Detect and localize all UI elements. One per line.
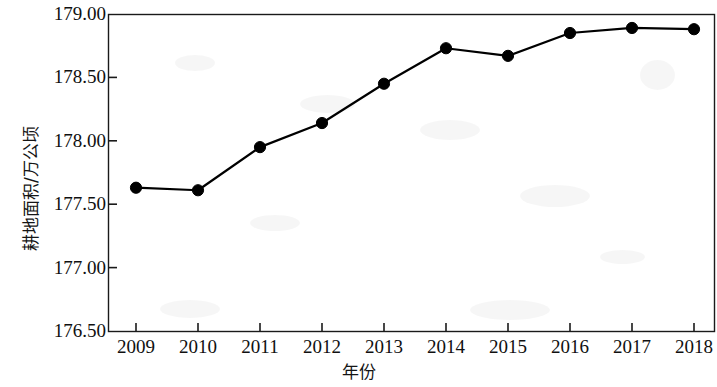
x-axis-title: 年份 xyxy=(0,358,717,383)
chart-figure: 耕地面积/万公顷 179.00178.50178.00177.50177.001… xyxy=(0,0,717,387)
x-axis-tick-label: 2011 xyxy=(225,337,295,356)
x-axis-tick-label: 2015 xyxy=(473,337,543,356)
x-axis-tick-label: 2009 xyxy=(101,337,171,356)
x-axis-tick-label: 2018 xyxy=(659,337,717,356)
x-axis-tick-label: 2016 xyxy=(535,337,605,356)
x-axis-tick-label: 2012 xyxy=(287,337,357,356)
x-axis-tick-label: 2014 xyxy=(411,337,481,356)
x-axis-tick-label: 2017 xyxy=(597,337,667,356)
x-axis-tick-label: 2013 xyxy=(349,337,419,356)
x-axis-tick-label: 2010 xyxy=(163,337,233,356)
x-axis-tick-labels: 2009201020112012201320142015201620172018 xyxy=(0,0,717,387)
